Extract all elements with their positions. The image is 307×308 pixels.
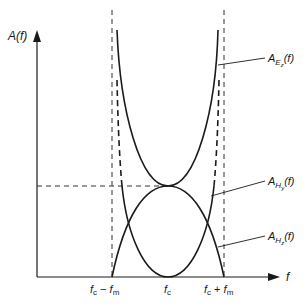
label-a-hy: AHy(f) <box>267 175 295 191</box>
curve-a-hz-dashed-left <box>117 80 122 186</box>
x-axis-label: f <box>286 270 291 284</box>
diagram-canvas: A(f) f AEz(f) AHy(f) AHz(f) fc − fm fc f… <box>0 0 307 308</box>
svg-text:fc − fm: fc − fm <box>90 283 120 297</box>
y-axis-label: A(f) <box>7 29 27 43</box>
svg-text:AHy(f): AHy(f) <box>267 175 295 191</box>
leader-lines <box>211 58 265 247</box>
svg-text:fc + fm: fc + fm <box>204 283 234 297</box>
svg-text:fc: fc <box>164 283 171 297</box>
svg-text:AEz(f): AEz(f) <box>267 52 294 68</box>
label-a-hz: AHz(f) <box>267 230 295 246</box>
curve-a-hz <box>122 186 214 277</box>
curve-a-hz-dashed-right <box>214 80 219 186</box>
x-tick-left: fc − fm <box>90 283 120 297</box>
axes <box>37 40 270 277</box>
x-axis-arrow-icon <box>268 273 280 281</box>
svg-text:AHz(f): AHz(f) <box>267 230 295 246</box>
label-a-ez: AEz(f) <box>267 52 294 68</box>
curve-a-hy <box>112 186 224 277</box>
y-axis-arrow-icon <box>33 30 41 42</box>
curve-a-ez <box>117 30 218 186</box>
reference-lines <box>37 10 224 277</box>
x-tick-center: fc <box>164 283 171 297</box>
x-tick-right: fc + fm <box>204 283 234 297</box>
